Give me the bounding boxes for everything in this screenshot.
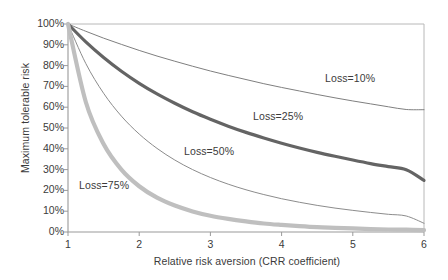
series-annotation: Loss=25% (253, 110, 303, 122)
plot-area (0, 0, 448, 280)
axis-lines (68, 24, 424, 232)
chart-figure: Maximum tolerable risk Relative risk ave… (0, 0, 448, 280)
series-line-loss-25 (68, 24, 424, 180)
series-annotation: Loss=50% (184, 145, 234, 157)
series-line-loss-10 (68, 24, 424, 110)
series-lines (68, 24, 424, 230)
series-annotation: Loss=10% (325, 72, 375, 84)
series-line-loss-75 (68, 24, 424, 230)
series-line-loss-50 (68, 24, 424, 223)
tick-marks (64, 24, 424, 236)
series-annotation: Loss=75% (79, 179, 129, 191)
